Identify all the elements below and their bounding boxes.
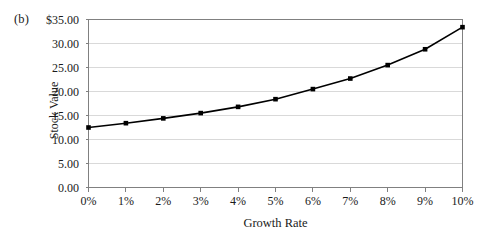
x-tick-label: 5% bbox=[268, 195, 284, 207]
x-tick-label: 9% bbox=[417, 195, 433, 207]
x-tick-label: 8% bbox=[380, 195, 396, 207]
x-axis-title: Growth Rate bbox=[88, 216, 463, 231]
x-tick-label: 10% bbox=[452, 195, 474, 207]
x-tick-label: 0% bbox=[81, 195, 97, 207]
x-tick-label: 2% bbox=[155, 195, 171, 207]
x-axis-tick-labels: 0%1%2%3%4%5%6%7%8%9%10% bbox=[0, 0, 483, 240]
x-tick-label: 1% bbox=[118, 195, 134, 207]
x-tick-label: 3% bbox=[193, 195, 209, 207]
chart-figure: (b) Stock Value $35.0030.0025.0020.0015.… bbox=[0, 0, 483, 240]
x-tick-label: 4% bbox=[230, 195, 246, 207]
x-tick-label: 7% bbox=[342, 195, 358, 207]
x-tick-label: 6% bbox=[305, 195, 321, 207]
